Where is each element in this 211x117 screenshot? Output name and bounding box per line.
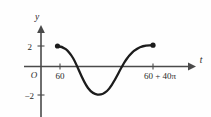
plot-canvas: y t O 2 −2 60 60 + 40π bbox=[0, 0, 211, 117]
x-axis-label: t bbox=[200, 55, 203, 65]
y-axis-label: y bbox=[34, 12, 40, 22]
curve-end-point bbox=[150, 43, 155, 48]
x-tick-label-60-plus-40pi: 60 + 40π bbox=[144, 71, 177, 81]
x-tick-label-60: 60 bbox=[56, 71, 66, 81]
cosine-curve bbox=[57, 45, 153, 94]
curve-start-point bbox=[55, 43, 60, 48]
y-tick-label-2: 2 bbox=[28, 42, 33, 52]
x-axis-arrow-icon bbox=[188, 63, 196, 71]
origin-label: O bbox=[31, 70, 38, 80]
graph-figure: y t O 2 −2 60 60 + 40π bbox=[0, 0, 211, 117]
y-tick-label-neg2: −2 bbox=[24, 91, 34, 101]
y-axis-arrow-icon bbox=[37, 25, 45, 33]
